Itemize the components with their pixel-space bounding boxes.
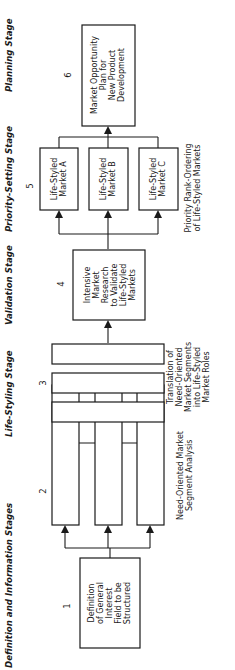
market-b: Life-Styled Market B	[89, 148, 128, 210]
step-3-caption-line: Market Roles	[202, 351, 211, 402]
role-box	[52, 344, 164, 364]
arrow-up-icon	[104, 525, 112, 533]
step-number: 6	[63, 72, 73, 77]
step-4-validation-research: 4 Intensive Market Research to Validate …	[56, 250, 145, 320]
box-text-line: Market	[92, 271, 101, 299]
market-c: Life-Styled Market C	[139, 148, 178, 210]
step-3-caption-line: Need-Oriented	[175, 348, 184, 407]
step-3-life-styled-roles: 3 Translation of Need-Oriented Market Se…	[38, 342, 211, 422]
arrow-up-icon	[104, 210, 112, 218]
box-text-line: Research	[101, 267, 110, 304]
box-text-line: Markets	[128, 269, 137, 301]
step-3-caption-line: Market Segments	[184, 342, 193, 412]
box-text-line: Structured	[123, 582, 132, 624]
box-text-line: New Product	[108, 50, 117, 100]
box-text-line: Market A	[59, 161, 68, 197]
stage-label-life-styling: Life-Styling Stage	[4, 350, 14, 437]
box-text-line: of General	[96, 582, 105, 624]
role-box	[52, 402, 164, 422]
box-text-line: Development	[117, 48, 126, 102]
step-3-caption-line: Translation of	[166, 350, 175, 405]
arrow-up-icon	[154, 210, 162, 218]
box-text-line: Life-Styled	[149, 158, 158, 200]
arrow-up-icon	[104, 126, 112, 134]
stage-label-priority-setting: Priority-Setting Stage	[4, 126, 14, 232]
market-a: Life-Styled Market A	[40, 148, 78, 210]
step-2-caption-line: Need-Oriented Market	[176, 431, 185, 520]
step-5-caption-line: of Life-Styled Markets	[193, 145, 202, 232]
step-6-market-opportunity-plan: 6 Market Opportunity Plan for New Produc…	[63, 25, 135, 126]
step-2-caption-line: Segment Analysis	[185, 439, 194, 511]
box-text-line: Market Opportunity	[90, 36, 99, 114]
role-box	[52, 373, 164, 393]
stage-headers: Definition and Information Stages Life-S…	[4, 18, 14, 668]
step-5-caption-line: Priority Rank-Ordering	[184, 143, 193, 232]
arrow-up-icon	[104, 320, 112, 328]
stage-label-definition: Definition and Information Stages	[4, 503, 14, 668]
box-text-line: Life-Styled	[119, 264, 128, 306]
stage-label-validation: Validation Stage	[4, 245, 14, 325]
box-text-line: Field to be	[114, 582, 123, 624]
stage-label-planning: Planning Stage	[4, 18, 14, 92]
arrow-up-icon	[61, 525, 69, 533]
box-text-line: Life-Styled	[99, 158, 108, 200]
box-text-line: to Validate	[110, 264, 119, 307]
step-5-life-styled-markets: 5 Life-Styled Market A Life-Styled Marke…	[25, 143, 202, 232]
box-text-line: Interest	[105, 588, 114, 619]
box-text-line: Plan for	[99, 59, 108, 90]
box-text-line: Definition	[87, 584, 96, 623]
step-3-caption-line: into Life-Styled	[193, 347, 202, 407]
step-number: 3	[38, 380, 48, 385]
step-number: 4	[56, 281, 66, 286]
arrow-up-icon	[146, 525, 154, 533]
step-number: 2	[38, 488, 48, 493]
box-text-line: Intensive	[83, 267, 92, 304]
market-structuring-flow-diagram: Definition and Information Stages Life-S…	[0, 0, 235, 670]
step-1-define-interest-field: 1 Definition of General Interest Field t…	[62, 558, 140, 648]
step-number: 1	[62, 603, 72, 608]
step-number: 5	[25, 183, 35, 188]
box-text-line: Life-Styled	[50, 158, 59, 200]
box-text-line: Market B	[108, 161, 117, 197]
arrow-up-icon	[55, 210, 63, 218]
box-text-line: Market C	[158, 161, 167, 197]
